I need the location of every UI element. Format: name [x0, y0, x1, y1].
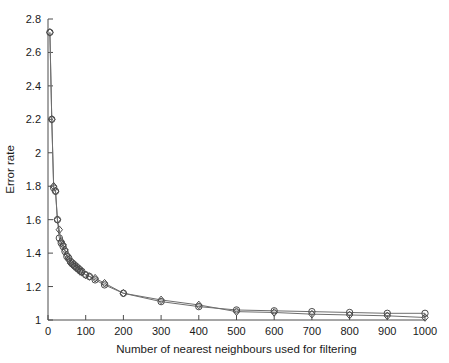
x-tick-label: 900 [378, 325, 396, 337]
axis-l-shape [48, 19, 425, 320]
x-tick-label: 400 [190, 325, 208, 337]
series-line [50, 32, 425, 317]
x-tick-label: 700 [303, 325, 321, 337]
x-tick-label: 300 [152, 325, 170, 337]
x-tick-label: 600 [265, 325, 283, 337]
y-tick-labels: 11.21.41.61.822.22.42.62.8 [26, 13, 41, 326]
x-tick-label: 200 [114, 325, 132, 337]
x-tick-label: 0 [45, 325, 51, 337]
x-tick-label: 1000 [413, 325, 437, 337]
x-axis-title: Number of nearest neighbours used for fi… [116, 343, 356, 355]
y-tick-label: 1 [35, 314, 41, 326]
y-tick-label: 1.4 [26, 247, 41, 259]
series-line [50, 32, 425, 313]
axis-lines [48, 19, 425, 320]
y-tick-label: 1.2 [26, 281, 41, 293]
series-diamond [47, 29, 429, 322]
chart-figure: 01002003004005006007008009001000 11.21.4… [0, 0, 449, 363]
x-tick-label: 800 [340, 325, 358, 337]
chart-canvas: 01002003004005006007008009001000 11.21.4… [0, 0, 449, 363]
x-tick-label: 500 [227, 325, 245, 337]
y-tick-label: 2.6 [26, 46, 41, 58]
y-tick-label: 2 [35, 147, 41, 159]
x-tick-labels: 01002003004005006007008009001000 [45, 325, 437, 337]
y-tick-label: 2.2 [26, 113, 41, 125]
y-tick-label: 1.8 [26, 180, 41, 192]
data-series-group [47, 29, 429, 322]
x-tick-label: 100 [77, 325, 95, 337]
y-tick-label: 2.4 [26, 80, 41, 92]
y-tick-label: 2.8 [26, 13, 41, 25]
y-tick-label: 1.6 [26, 214, 41, 226]
series-circle [47, 29, 429, 316]
y-axis-title: Error rate [4, 145, 16, 194]
